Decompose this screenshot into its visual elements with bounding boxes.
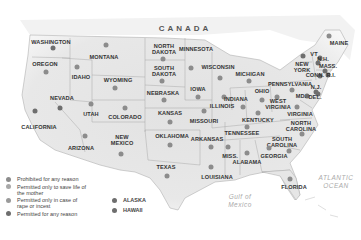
- state-dot-icon: [51, 46, 56, 51]
- state-label: MASS.: [319, 63, 337, 69]
- state-label: WEST VIRGINIA: [265, 98, 291, 110]
- state-label: WASHINGTON: [31, 39, 70, 45]
- water-label-atlantic: ATLANTIC OCEAN: [319, 174, 354, 190]
- state-label: SOUTH CAROLINA: [267, 136, 297, 148]
- legend-dot-icon: [112, 208, 117, 213]
- state-dot-icon: [119, 152, 124, 157]
- legend-dot-icon: [6, 211, 11, 216]
- state-dot-icon: [301, 54, 306, 59]
- state-label: IOWA: [190, 86, 205, 92]
- state-label: ILLINOIS: [210, 103, 234, 109]
- water-label-gulf: Gulf of Mexico: [228, 193, 252, 209]
- state-dot-icon: [44, 70, 49, 75]
- state-dot-icon: [209, 145, 214, 150]
- state-label: SOUTH DAKOTA: [152, 65, 176, 77]
- state-dot-icon: [245, 151, 250, 156]
- state-label: MONTANA: [90, 54, 119, 60]
- state-dot-icon: [58, 106, 63, 111]
- legend-alaska-hawaii: ALASKA HAWAII: [112, 197, 146, 217]
- state-dot-icon: [290, 88, 295, 93]
- state-label: MINNESOTA: [179, 46, 213, 52]
- state-label: WYOMING: [104, 77, 133, 83]
- state-label: NORTH DAKOTA: [152, 43, 176, 55]
- state-label: LOUISIANA: [201, 174, 233, 180]
- state-dot-icon: [161, 57, 166, 62]
- state-label: R.I.: [326, 72, 335, 78]
- state-dot-icon: [218, 76, 223, 81]
- state-label: CALIFORNIA: [21, 124, 57, 130]
- state-label: N.J.: [311, 84, 322, 90]
- legend-dot-icon: [6, 184, 11, 189]
- legend-item-any-reason: Permitted for any reason: [6, 211, 89, 217]
- legend-dot-icon: [6, 177, 11, 182]
- state-label: COLORADO: [108, 114, 141, 120]
- state-label: MD.: [296, 93, 307, 99]
- state-label: KENTUCKY: [242, 117, 274, 123]
- state-dot-icon: [209, 165, 214, 170]
- state-dot-icon: [168, 143, 173, 148]
- state-label: TEXAS: [156, 164, 175, 170]
- state-dot-icon: [160, 79, 165, 84]
- state-dot-icon: [247, 79, 252, 84]
- legend-item-hawaii: HAWAII: [112, 207, 146, 213]
- state-label: OHIO: [255, 88, 270, 94]
- state-label: MISSOURI: [190, 118, 218, 124]
- legend-dot-icon: [6, 198, 11, 203]
- state-label: ARKANSAS: [191, 136, 224, 142]
- legend-item-alaska: ALASKA: [112, 197, 146, 203]
- legend-dot-icon: [112, 198, 117, 203]
- state-label: CONN.: [306, 72, 325, 78]
- state-dot-icon: [162, 98, 167, 103]
- state-dot-icon: [123, 106, 128, 111]
- state-dot-icon: [33, 109, 38, 114]
- state-label: WISCONSIN: [201, 64, 234, 70]
- legend-item-prohibited: Prohibited for any reason: [6, 176, 89, 182]
- state-dot-icon: [300, 132, 305, 137]
- state-label: NEVADA: [50, 95, 74, 101]
- state-label: FLORIDA: [281, 184, 307, 190]
- state-label: GEORGIA: [260, 153, 287, 159]
- state-dot-icon: [75, 65, 80, 70]
- state-dot-icon: [196, 95, 201, 100]
- legend-item-save-life: Permitted only to save life of the mothe…: [6, 184, 89, 196]
- state-dot-icon: [267, 146, 272, 151]
- state-dot-icon: [226, 145, 231, 150]
- state-label: IDAHO: [72, 74, 91, 80]
- state-dot-icon: [113, 86, 118, 91]
- state-label: KANSAS: [158, 110, 182, 116]
- state-label: NEW MEXICO: [111, 134, 134, 146]
- state-label: N.H.: [317, 56, 329, 62]
- state-label: OREGON: [32, 61, 57, 67]
- state-dot-icon: [260, 98, 265, 103]
- state-label: NORTH CAROLINA: [286, 120, 316, 132]
- state-label: NEBRASKA: [147, 90, 180, 96]
- state-dot-icon: [89, 102, 94, 107]
- state-label: INDIANA: [224, 96, 248, 102]
- state-dot-icon: [168, 120, 173, 125]
- state-dot-icon: [165, 174, 170, 179]
- state-dot-icon: [104, 43, 109, 48]
- state-label: ARIZONA: [68, 145, 94, 151]
- state-label: MICHIGAN: [235, 71, 264, 77]
- state-dot-icon: [245, 125, 250, 130]
- state-dot-icon: [295, 105, 300, 110]
- legend-item-rape-incest: Permitted only in case of rape or incest: [6, 197, 89, 209]
- state-dot-icon: [288, 177, 293, 182]
- state-dot-icon: [256, 111, 261, 116]
- legend: Prohibited for any reason Permitted only…: [6, 176, 89, 218]
- country-label-canada: CANADA: [159, 24, 212, 33]
- state-label: DEL.: [308, 94, 321, 100]
- state-label: ALABAMA: [233, 159, 262, 165]
- state-label: TENNESSEE: [225, 130, 260, 136]
- state-label: PENNSYLVANIA: [268, 81, 312, 87]
- state-label: VIRGINIA: [287, 111, 313, 117]
- state-label: UTAH: [83, 111, 99, 117]
- state-label: MAINE: [330, 40, 349, 46]
- state-dot-icon: [241, 105, 246, 110]
- state-dot-icon: [202, 109, 207, 114]
- state-dot-icon: [189, 66, 194, 71]
- state-dot-icon: [83, 134, 88, 139]
- state-dot-icon: [327, 34, 332, 39]
- state-label: OKLAHOMA: [155, 133, 189, 139]
